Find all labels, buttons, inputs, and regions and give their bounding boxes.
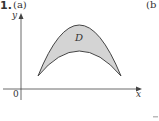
page-mark [153, 116, 158, 118]
region-diagram [0, 0, 159, 121]
x-axis-label: x [136, 90, 141, 99]
origin-label: 0 [13, 90, 19, 99]
y-axis-arrow-icon [19, 13, 24, 19]
y-axis-label: y [12, 11, 17, 20]
region-label: D [75, 33, 83, 43]
